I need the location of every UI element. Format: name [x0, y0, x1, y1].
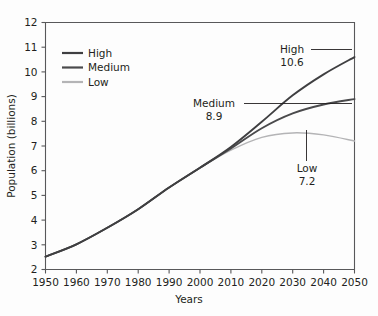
- y-tick-label: 10: [24, 66, 37, 78]
- annotation-low-label: Low: [297, 162, 318, 174]
- axes: [46, 22, 356, 270]
- y-tick-label: 7: [31, 140, 38, 152]
- population-projection-chart: 23456789101112 1950196019701980199020002…: [0, 0, 378, 316]
- x-axis-ticks: 1950196019701980199020002010202020302040…: [32, 270, 368, 288]
- legend-label-high: High: [88, 47, 112, 59]
- y-tick-label: 3: [31, 239, 38, 251]
- x-tick-label: 2010: [218, 276, 245, 288]
- annotation-medium-label: Medium: [193, 97, 235, 109]
- annotation-medium-value: 8.9: [206, 110, 223, 122]
- y-axis-title: Population (billions): [5, 94, 17, 198]
- chart-svg: 23456789101112 1950196019701980199020002…: [0, 0, 378, 316]
- x-tick-label: 1960: [63, 276, 90, 288]
- x-tick-label: 2030: [279, 276, 306, 288]
- annotation-medium: Medium 8.9: [193, 97, 352, 122]
- annotation-low-value: 7.2: [299, 175, 316, 187]
- legend-label-low: Low: [88, 76, 109, 88]
- x-tick-label: 1950: [32, 276, 59, 288]
- y-axis-ticks: 23456789101112: [24, 16, 45, 275]
- y-tick-label: 9: [31, 90, 38, 102]
- y-tick-label: 8: [31, 115, 38, 127]
- x-tick-label: 1990: [156, 276, 183, 288]
- x-tick-label: 2040: [310, 276, 337, 288]
- annotation-low: Low 7.2: [297, 130, 318, 187]
- annotation-high-value: 10.6: [280, 56, 304, 68]
- annotation-high-label: High: [280, 43, 304, 55]
- y-tick-label: 11: [24, 41, 37, 53]
- y-tick-label: 5: [31, 189, 38, 201]
- series-line-low: [46, 133, 355, 257]
- x-tick-label: 2020: [248, 276, 275, 288]
- y-tick-label: 4: [31, 214, 38, 226]
- x-tick-label: 1980: [125, 276, 152, 288]
- chart-legend: HighMediumLow: [62, 47, 130, 88]
- x-tick-label: 2000: [187, 276, 214, 288]
- legend-label-medium: Medium: [88, 61, 130, 73]
- x-tick-label: 2050: [341, 276, 368, 288]
- y-tick-label: 12: [24, 16, 37, 28]
- y-tick-label: 2: [31, 263, 38, 275]
- x-axis-title: Years: [174, 293, 203, 305]
- x-tick-label: 1970: [94, 276, 121, 288]
- y-tick-label: 6: [31, 164, 38, 176]
